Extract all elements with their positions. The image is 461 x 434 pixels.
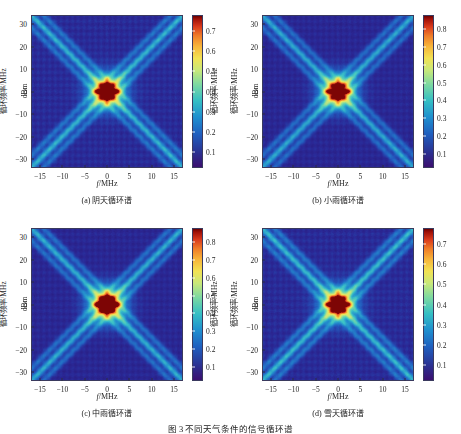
colorbar-tick-label: 0.3 [437, 320, 446, 329]
x-tick-mark [382, 378, 383, 381]
colorbar-outer-label-a: 循环频率/MHz [208, 68, 219, 114]
colorbar-tick-mark [423, 324, 426, 325]
colorbar-tick-mark [423, 284, 426, 285]
colorbar-tick-label: 0.1 [206, 362, 215, 371]
colorbar-tick-mark [192, 31, 195, 32]
x-tick-label: 15 [401, 172, 409, 181]
colorbar-gradient-c [192, 228, 203, 381]
spectrum-canvas [263, 229, 413, 380]
x-tick-label: −10 [287, 385, 299, 394]
colorbar-label-b: dBm [251, 84, 260, 99]
colorbar-tick-label: 0.2 [437, 131, 446, 140]
y-tick-label: 30 [251, 233, 259, 242]
y-tick-mark [262, 372, 265, 373]
y-tick-label: −10 [15, 323, 27, 332]
colorbar-tick-mark [192, 260, 195, 261]
y-tick-mark [262, 91, 265, 92]
colorbar-tick-mark [423, 344, 426, 345]
spectrum-canvas [32, 16, 182, 167]
y-tick-mark [31, 327, 34, 328]
y-tick-label: 10 [20, 278, 28, 287]
x-tick-mark [129, 165, 130, 168]
x-tick-mark [107, 378, 108, 381]
y-axis-label-b: 循环频率/MHz [228, 68, 239, 114]
subplot-caption-b: (b) 小雨循环谱 [312, 194, 363, 205]
colorbar-tick-label: 0.8 [206, 238, 215, 247]
x-tick-label: −10 [56, 385, 68, 394]
colorbar-tick-mark [192, 51, 195, 52]
figure-caption: 图 3 不同天气条件的信号循环谱 [0, 422, 461, 434]
y-tick-label: −10 [246, 110, 258, 119]
colorbar-tick-mark [423, 64, 426, 65]
colorbar-b: 0.10.20.30.40.50.60.70.8 [423, 15, 434, 168]
colorbar-tick-mark [192, 242, 195, 243]
colorbar-tick-mark [423, 29, 426, 30]
colorbar-tick-mark [192, 313, 195, 314]
x-tick-label: 5 [358, 385, 362, 394]
y-tick-label: −20 [15, 345, 27, 354]
y-tick-mark [262, 69, 265, 70]
x-axis-label-a: f/MHz [97, 179, 118, 188]
subplot-d: 循环频率/MHz 3020100−10−20−30 −15−10−5051015… [231, 215, 461, 427]
y-tick-label: −20 [15, 132, 27, 141]
colorbar-tick-label: 0.1 [437, 149, 446, 158]
x-tick-label: 5 [358, 172, 362, 181]
colorbar-tick-mark [192, 71, 195, 72]
colorbar-tick-label: 0.3 [437, 114, 446, 123]
colorbar-tick-mark [423, 100, 426, 101]
colorbar-label-d: dBm [251, 297, 260, 312]
colorbar-tick-mark [423, 118, 426, 119]
colorbar-tick-label: 0.6 [437, 260, 446, 269]
x-tick-mark [39, 378, 40, 381]
y-tick-label: −20 [246, 345, 258, 354]
y-tick-mark [262, 159, 265, 160]
y-tick-label: −10 [15, 110, 27, 119]
y-tick-mark [262, 327, 265, 328]
colorbar-a: 0.10.20.30.40.50.60.7 [192, 15, 203, 168]
colorbar-tick-label: 0.4 [437, 300, 446, 309]
colorbar-tick-label: 0.2 [206, 127, 215, 136]
x-axis-label-c: f/MHz [97, 392, 118, 401]
x-tick-mark [293, 165, 294, 168]
y-tick-mark [262, 114, 265, 115]
x-tick-label: −15 [34, 172, 46, 181]
colorbar-tick-mark [423, 153, 426, 154]
x-tick-label: 15 [170, 172, 178, 181]
subplot-caption-d: (d) 雪天循环谱 [312, 407, 363, 418]
colorbar-tick-mark [192, 277, 195, 278]
y-tick-mark [31, 46, 34, 47]
x-tick-label: 10 [379, 385, 387, 394]
colorbar-tick-label: 0.4 [437, 96, 446, 105]
y-tick-mark [31, 282, 34, 283]
colorbar-tick-mark [423, 264, 426, 265]
x-tick-label: −5 [81, 385, 89, 394]
x-tick-mark [405, 165, 406, 168]
colorbar-tick-label: 0.1 [206, 147, 215, 156]
x-tick-label: −15 [265, 385, 277, 394]
x-tick-mark [270, 165, 271, 168]
colorbar-label-c: dBm [20, 297, 29, 312]
x-tick-mark [338, 165, 339, 168]
y-tick-label: 20 [20, 255, 28, 264]
heatmap-c [32, 229, 182, 380]
colorbar-gradient-b [423, 15, 434, 168]
y-tick-mark [262, 237, 265, 238]
y-tick-mark [262, 304, 265, 305]
y-axis-label-a: 循环频率/MHz [0, 68, 8, 114]
x-tick-label: −10 [287, 172, 299, 181]
colorbar-tick-mark [192, 366, 195, 367]
colorbar-tick-label: 0.7 [437, 43, 446, 52]
colorbar-tick-label: 0.6 [206, 47, 215, 56]
colorbar-tick-label: 0.5 [437, 280, 446, 289]
y-tick-label: 30 [20, 233, 28, 242]
colorbar-tick-mark [423, 47, 426, 48]
colorbar-tick-mark [192, 151, 195, 152]
x-tick-mark [39, 165, 40, 168]
y-tick-mark [31, 159, 34, 160]
colorbar-tick-label: 0.1 [437, 360, 446, 369]
y-tick-mark [262, 349, 265, 350]
colorbar-c: 0.10.20.30.40.50.60.70.8 [192, 228, 203, 381]
y-tick-label: 30 [20, 20, 28, 29]
colorbar-tick-label: 0.2 [206, 344, 215, 353]
colorbar-tick-mark [192, 331, 195, 332]
